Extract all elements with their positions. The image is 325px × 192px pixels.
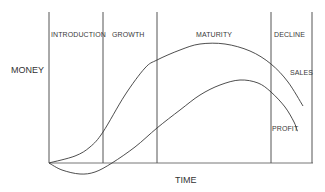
sales-curve (49, 43, 303, 163)
y-axis-label: MONEY (11, 66, 44, 75)
profit-curve (49, 80, 298, 174)
stage-label-maturity: MATURITY (196, 31, 232, 38)
stage-label-growth: GROWTH (112, 31, 144, 38)
stage-label-decline: DECLINE (274, 31, 305, 38)
series-label-sales: SALES (290, 69, 313, 76)
stage-label-introduction: INTRODUCTION (51, 31, 106, 38)
x-axis-label: TIME (175, 176, 197, 185)
life-cycle-chart (0, 0, 325, 192)
series-label-profit: PROFIT (272, 125, 298, 132)
